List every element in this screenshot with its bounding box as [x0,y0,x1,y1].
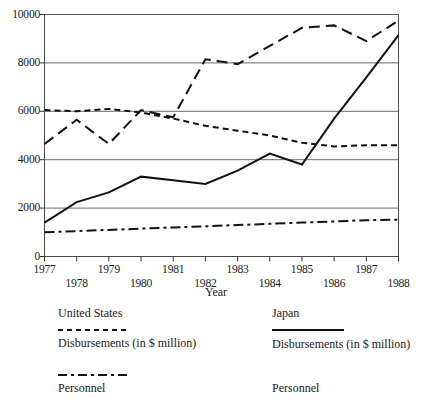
x-tick-label: 1981 [153,264,193,276]
legend-column-united-states: United States Disbursements (in $ millio… [58,306,238,396]
plot-svg [0,0,432,300]
x-tick-label: 1985 [282,264,322,276]
y-tick-label: 8000 [0,57,40,69]
x-tick-label: 1987 [346,264,386,276]
x-tick-label: 1977 [25,264,65,276]
legend-entry-japan-personnel: Personnel [272,375,432,397]
series-lines [45,21,399,233]
x-axis-ticks [45,257,399,262]
legend: United States Disbursements (in $ millio… [0,306,432,396]
gridlines [45,15,399,209]
legend-line-sample-short-dash-icon [58,329,130,331]
legend-line-sample-long-dash-icon [272,375,344,377]
legend-country-united-states: United States [58,306,238,320]
legend-label-japan-personnel: Personnel [272,381,319,395]
x-axis-title: Year [0,285,432,300]
y-tick-label: 10000 [0,9,40,21]
line-chart: 0200040006000800010000 19771978197919801… [0,0,432,300]
legend-label-us-disbursements: Disbursements (in $ million) [58,336,196,350]
figure-container: 0200040006000800010000 19771978197919801… [0,0,432,403]
x-tick-label: 1979 [89,264,129,276]
y-axis-ticks [40,15,45,257]
y-tick-label: 2000 [0,202,40,214]
y-tick-label: 6000 [0,105,40,117]
series-line-long-dash [45,21,399,144]
legend-entry-japan-disbursements: Disbursements (in $ million) [272,329,432,352]
legend-column-japan: Japan Disbursements (in $ million) Perso… [272,306,432,396]
series-line-dash-dot [45,220,399,233]
legend-line-sample-solid-icon [272,329,344,331]
legend-line-sample-dash-dot-icon [58,374,130,376]
legend-label-us-personnel: Personnel [58,381,105,395]
legend-entry-us-disbursements: Disbursements (in $ million) [58,329,238,351]
x-tick-label: 1983 [218,264,258,276]
series-line-short-dash [45,109,399,147]
legend-country-japan: Japan [272,306,432,320]
legend-label-japan-disbursements: Disbursements (in $ million) [272,337,410,351]
legend-entry-us-personnel: Personnel [58,374,238,396]
y-tick-label: 4000 [0,154,40,166]
y-tick-label: 0 [0,251,40,263]
